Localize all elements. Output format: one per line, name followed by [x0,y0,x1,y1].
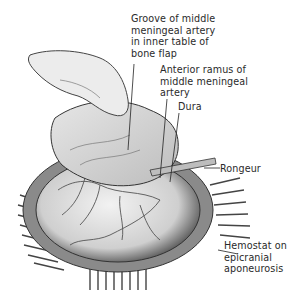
label-anterior-ramus: Anterior ramus of middle meningeal arter… [160,64,248,99]
label-rongeur: Rongeur [220,163,261,175]
label-groove-middle-meningeal-artery: Groove of middle meningeal artery in inn… [131,13,215,59]
label-hemostat: Hemostat on epicranial aponeurosis [224,240,287,275]
label-dura: Dura [178,101,202,113]
